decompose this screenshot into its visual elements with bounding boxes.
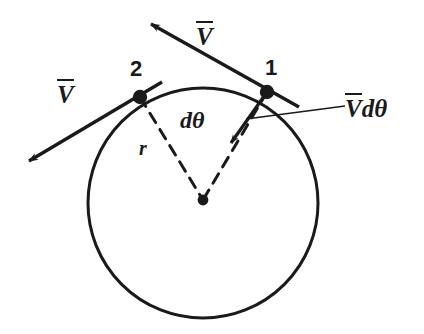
point-1-label: 1 — [265, 57, 277, 79]
velocity-change-label-dtheta: dθ — [362, 95, 387, 122]
diagram-canvas — [0, 0, 424, 334]
point-2-marker — [133, 90, 147, 104]
velocity-label-top-text: V — [196, 21, 213, 49]
circle-center-marker — [198, 195, 209, 206]
leader-line — [246, 106, 345, 119]
velocity-label-left-text: V — [57, 79, 74, 107]
velocity-label-top: V — [196, 21, 213, 49]
point-2-label: 2 — [130, 58, 142, 80]
point-1-marker — [260, 85, 274, 99]
central-angle-label: dθ — [180, 108, 204, 132]
velocity-change-label: Vdθ — [345, 93, 387, 121]
circular-motion-diagram: V V 1 2 dθ r Vdθ — [0, 0, 424, 334]
velocity-label-left: V — [57, 79, 74, 107]
radius-label: r — [139, 138, 147, 158]
velocity-change-label-v: V — [345, 93, 362, 121]
